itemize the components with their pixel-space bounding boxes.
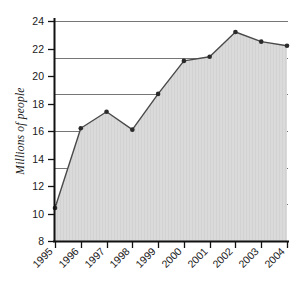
data-point xyxy=(156,92,161,97)
y-tick-label: 16 xyxy=(32,125,44,137)
data-point xyxy=(104,109,109,114)
data-point xyxy=(78,126,83,131)
data-point xyxy=(130,127,135,132)
data-point xyxy=(233,30,238,35)
y-tick-label: 24 xyxy=(32,15,44,27)
chart-container: 81012141618202224 1995199619971998199920… xyxy=(0,0,305,282)
y-tick-label: 14 xyxy=(32,153,44,165)
data-point xyxy=(285,43,290,48)
data-point xyxy=(182,59,187,64)
y-tick-label: 8 xyxy=(38,235,44,247)
y-tick-label: 12 xyxy=(32,180,44,192)
y-tick-label: 22 xyxy=(32,43,44,55)
data-point xyxy=(207,54,212,59)
y-tick-label: 18 xyxy=(32,98,44,110)
y-tick-label: 20 xyxy=(32,70,44,82)
y-tick-label: 10 xyxy=(32,208,44,220)
area-chart: 81012141618202224 1995199619971998199920… xyxy=(0,0,305,282)
y-axis-label: Millions of people xyxy=(14,87,27,175)
data-point xyxy=(259,39,264,44)
